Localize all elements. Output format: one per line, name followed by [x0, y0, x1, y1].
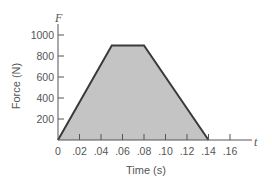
x-tick-label: .08 [137, 145, 152, 157]
x-tick-label: .16 [223, 145, 238, 157]
y-axis-label: Force (N) [10, 63, 22, 109]
y-tick-label: 1000 [31, 29, 55, 41]
y-tick-label: 200 [36, 113, 54, 125]
x-tick-label: .12 [180, 145, 195, 157]
x-axis-variable: t [254, 135, 258, 149]
y-tick-label: 800 [36, 50, 54, 62]
x-tick-label: .04 [94, 145, 109, 157]
x-tick-label: 0 [55, 145, 61, 157]
y-ticks: 2004006008001000 [31, 29, 64, 125]
y-axis-variable: F [54, 11, 63, 25]
x-tick-label: .14 [201, 145, 216, 157]
x-tick-label: .06 [115, 145, 130, 157]
y-tick-label: 600 [36, 71, 54, 83]
x-tick-label: .02 [72, 145, 87, 157]
x-tick-label: .10 [158, 145, 173, 157]
force-time-chart: 0.02.04.06.08.10.12.14.16 20040060080010… [0, 0, 272, 182]
x-axis-label: Time (s) [126, 164, 166, 176]
y-tick-label: 400 [36, 92, 54, 104]
force-area [58, 46, 209, 141]
